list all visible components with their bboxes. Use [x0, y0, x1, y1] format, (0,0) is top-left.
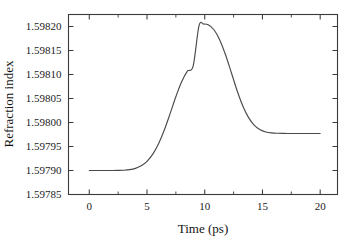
y-axis-title: Refraction index	[1, 60, 16, 147]
y-tick-label-1.59800: 1.59800	[26, 116, 62, 128]
x-tick-label-0: 0	[87, 200, 93, 212]
y-tick-label-1.59795: 1.59795	[26, 140, 62, 152]
y-tick-label-1.59815: 1.59815	[26, 44, 62, 56]
x-tick-label-20: 20	[315, 200, 327, 212]
x-tick-label-15: 15	[257, 200, 269, 212]
x-tick-label-5: 5	[144, 200, 150, 212]
y-tick-label-1.59805: 1.59805	[26, 92, 62, 104]
x-axis-title: Time (ps)	[178, 221, 228, 236]
y-tick-label-1.59810: 1.59810	[26, 68, 62, 80]
x-tick-label-10: 10	[199, 200, 211, 212]
figure-canvas: 05101520 1.597851.597901.597951.598001.5…	[0, 0, 346, 242]
y-tick-label-1.59790: 1.59790	[26, 164, 62, 176]
y-tick-label-1.59820: 1.59820	[26, 20, 62, 32]
refraction-index-line-chart: 05101520 1.597851.597901.597951.598001.5…	[0, 0, 346, 242]
y-tick-label-1.59785: 1.59785	[26, 188, 62, 200]
